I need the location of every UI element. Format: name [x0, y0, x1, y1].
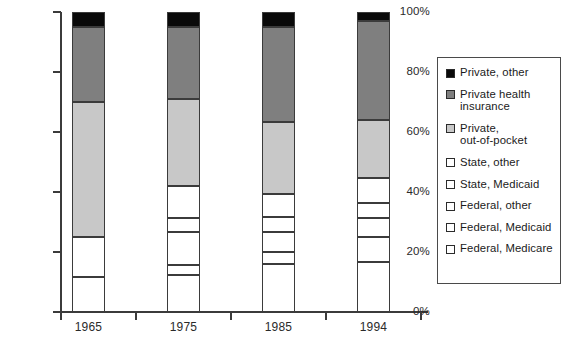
- light-gray-swatch-icon: [446, 124, 455, 133]
- y-tick-60: [53, 131, 61, 133]
- bar-1985[interactable]: [262, 0, 295, 345]
- legend-box: Private, otherPrivate health insurancePr…: [437, 57, 561, 284]
- legend-label-2: Private, out-of-pocket: [460, 122, 527, 147]
- bar-segment-1965-federal-medicare[interactable]: [72, 277, 105, 312]
- dark-gray-swatch-icon: [446, 90, 455, 99]
- y-tick-100: [53, 11, 61, 13]
- bar-segment-1975-state-other[interactable]: [167, 186, 200, 218]
- bar-segment-1965-private-health-insurance[interactable]: [72, 27, 105, 102]
- bar-segment-1975-private-out-of-pocket[interactable]: [167, 99, 200, 186]
- legend-item-2[interactable]: Private, out-of-pocket: [446, 122, 554, 147]
- legend-label-4: State, Medicaid: [460, 178, 539, 191]
- x-tick-0: [60, 312, 62, 320]
- legend-item-4[interactable]: State, Medicaid: [446, 178, 554, 191]
- bar-segment-1985-state-medicaid[interactable]: [262, 217, 295, 232]
- bar-1994[interactable]: [357, 0, 390, 345]
- legend-item-1[interactable]: Private health insurance: [446, 88, 554, 113]
- legend-label-3: State, other: [460, 156, 520, 169]
- plot-area: 0%20%40%60%80%100% 1965197519851994: [0, 0, 430, 345]
- legend-label-1: Private health insurance: [460, 88, 530, 113]
- bar-segment-1975-federal-other[interactable]: [167, 232, 200, 265]
- legend-label-5: Federal, other: [460, 199, 532, 212]
- bar-segment-1994-state-medicaid[interactable]: [357, 203, 390, 218]
- bar-segment-1994-private-out-of-pocket[interactable]: [357, 120, 390, 178]
- white-swatch-icon: [446, 158, 455, 167]
- white-swatch-icon: [446, 245, 455, 254]
- bar-segment-1975-private-health-insurance[interactable]: [167, 27, 200, 99]
- white-swatch-icon: [446, 180, 455, 189]
- x-axis-label-1965: 1965: [59, 320, 119, 334]
- legend-label-0: Private, other: [460, 66, 529, 79]
- x-axis-label-1975: 1975: [154, 320, 214, 334]
- bar-segment-1965-private-out-of-pocket[interactable]: [72, 102, 105, 237]
- bar-segment-1985-state-other[interactable]: [262, 194, 295, 217]
- bar-segment-1985-private-other[interactable]: [262, 12, 295, 27]
- legend-item-5[interactable]: Federal, other: [446, 199, 554, 212]
- legend-item-3[interactable]: State, other: [446, 156, 554, 169]
- chart-root: 0%20%40%60%80%100% 1965197519851994 Priv…: [0, 0, 566, 345]
- bar-1965[interactable]: [72, 0, 105, 345]
- bar-segment-1994-state-other[interactable]: [357, 178, 390, 203]
- bar-segment-1985-federal-medicare[interactable]: [262, 264, 295, 312]
- x-tick-2: [230, 312, 232, 320]
- legend-label-6: Federal, Medicaid: [460, 221, 552, 234]
- bar-segment-1975-state-medicaid[interactable]: [167, 218, 200, 232]
- y-tick-40: [53, 191, 61, 193]
- bar-segment-1965-federal-other[interactable]: [72, 237, 105, 277]
- black-swatch-icon: [446, 69, 455, 78]
- bar-segment-1985-private-out-of-pocket[interactable]: [262, 122, 295, 194]
- x-axis-label-1985: 1985: [249, 320, 309, 334]
- bar-segment-1994-federal-medicare[interactable]: [357, 262, 390, 312]
- white-swatch-icon: [446, 223, 455, 232]
- legend-item-0[interactable]: Private, other: [446, 66, 554, 79]
- x-tick-1: [135, 312, 137, 320]
- bar-1975[interactable]: [167, 0, 200, 345]
- x-tick-3: [325, 312, 327, 320]
- bar-segment-1985-federal-other[interactable]: [262, 232, 295, 252]
- bar-segment-1985-private-health-insurance[interactable]: [262, 27, 295, 122]
- bar-segment-1985-federal-medicaid[interactable]: [262, 252, 295, 264]
- y-tick-80: [53, 71, 61, 73]
- legend-item-6[interactable]: Federal, Medicaid: [446, 221, 554, 234]
- bar-segment-1975-private-other[interactable]: [167, 12, 200, 27]
- bar-segment-1994-private-other[interactable]: [357, 12, 390, 21]
- bar-segment-1975-federal-medicaid[interactable]: [167, 265, 200, 275]
- bar-segment-1994-private-health-insurance[interactable]: [357, 21, 390, 120]
- bar-segment-1965-private-other[interactable]: [72, 12, 105, 27]
- legend-items: Private, otherPrivate health insurancePr…: [446, 66, 554, 255]
- bar-segment-1994-federal-other[interactable]: [357, 218, 390, 237]
- legend-item-7[interactable]: Federal, Medicare: [446, 242, 554, 255]
- y-axis-line: [60, 12, 62, 312]
- bar-segment-1975-federal-medicare[interactable]: [167, 275, 200, 312]
- y-tick-20: [53, 251, 61, 253]
- x-tick-4: [420, 312, 422, 320]
- x-axis-label-1994: 1994: [344, 320, 404, 334]
- legend-label-7: Federal, Medicare: [460, 242, 553, 255]
- bar-segment-1994-federal-medicaid[interactable]: [357, 237, 390, 262]
- white-swatch-icon: [446, 202, 455, 211]
